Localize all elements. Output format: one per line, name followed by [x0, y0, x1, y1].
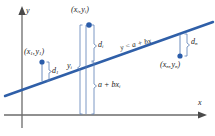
y-axis: [18, 6, 25, 128]
nth-point-deviation-group: [177, 34, 189, 59]
ith-point-y-sub: i: [85, 9, 86, 14]
nth-point-y-sub: n: [175, 64, 177, 69]
yi-label: yi: [67, 62, 72, 71]
first-point-marker: [39, 59, 44, 64]
dn-bracket: [185, 34, 190, 56]
x-axis: [4, 112, 207, 119]
di-label: di: [98, 41, 103, 50]
predicted-value-label: a + bxi: [98, 81, 120, 90]
d1-sub: 1: [56, 70, 58, 75]
di-bracket: [92, 25, 97, 61]
nth-point-label: (xn, yn): [160, 61, 180, 70]
y-axis-arrowhead: [18, 6, 25, 15]
ith-point-x-sub: i: [77, 9, 78, 14]
dn-label: dn: [191, 38, 197, 47]
d1-label: d1: [52, 67, 58, 76]
x-axis-arrowhead: [198, 112, 207, 119]
first-point-y-sub: 1: [39, 51, 41, 56]
ith-point-label: (xi, yi): [71, 6, 89, 15]
nth-point-marker: [177, 53, 182, 58]
yi-sub: i: [71, 65, 72, 70]
first-point-label: (x1, y1): [24, 48, 44, 57]
predicted-value-sub: i: [119, 84, 120, 89]
y-axis-label: y: [26, 7, 30, 15]
first-point-x-sub: 1: [30, 51, 32, 56]
nth-point-x-sub: n: [166, 64, 168, 69]
predicted-value-expr: a + bx: [98, 80, 119, 89]
ith-point-marker: [86, 22, 92, 28]
figure-canvas: [0, 0, 215, 136]
dn-sub: n: [195, 41, 197, 46]
di-sub: i: [102, 44, 103, 49]
d1-bracket: [47, 62, 52, 81]
x-axis-label: x: [198, 99, 202, 107]
first-point-deviation-group: [39, 59, 51, 81]
predicted-value-bracket: [92, 62, 97, 114]
regression-deviations-figure: y x (x1, y1) d1 (xi, yi) di yi a + bxi y…: [0, 0, 215, 136]
